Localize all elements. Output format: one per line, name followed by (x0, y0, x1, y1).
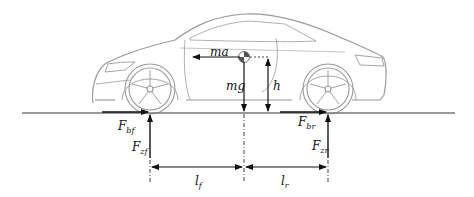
label-h: h (273, 80, 281, 92)
rear-wheel (300, 64, 356, 114)
label-lr: lr (281, 175, 289, 190)
label-ma: ma (210, 46, 229, 58)
label-fbr: Fbr (298, 116, 315, 131)
label-lf: lf (195, 175, 202, 190)
front-wheel (122, 64, 178, 114)
label-fzr: Fzr (312, 140, 328, 155)
label-fzf: Fzf (132, 141, 148, 156)
label-fbf: Fbf (118, 120, 134, 135)
center-of-gravity-icon (239, 52, 250, 63)
label-mg: mg (226, 80, 245, 92)
car-diagram (0, 0, 474, 197)
